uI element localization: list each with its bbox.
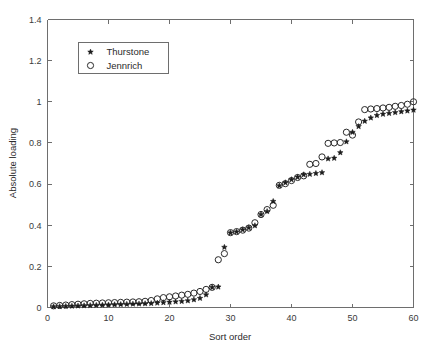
data-point-star: [380, 111, 386, 116]
x-tick-label: 20: [164, 313, 174, 323]
data-point-circle: [331, 140, 337, 146]
data-point-star: [173, 299, 179, 304]
data-point-star: [405, 108, 411, 113]
scatter-chart: 010203040506000.20.40.60.811.21.4 Thurst…: [0, 0, 433, 355]
data-point-star: [222, 244, 228, 249]
legend-label-jennrich: Jennrich: [107, 60, 143, 71]
figure-container: 010203040506000.20.40.60.811.21.4 Thurst…: [0, 0, 433, 355]
x-tick-label: 0: [45, 313, 50, 323]
data-point-star: [386, 110, 392, 115]
data-point-star: [374, 112, 380, 117]
data-point-star: [350, 129, 356, 134]
data-point-star: [289, 177, 295, 182]
data-point-circle: [343, 129, 349, 135]
data-point-circle: [173, 293, 179, 299]
data-point-circle: [185, 291, 191, 297]
data-point-star: [216, 284, 222, 289]
x-tick-label: 60: [408, 313, 418, 323]
data-point-star: [167, 299, 173, 304]
data-point-star: [203, 292, 209, 297]
y-tick-label: 0: [36, 303, 41, 313]
data-point-circle: [191, 290, 197, 296]
data-point-star: [94, 302, 100, 307]
data-point-circle: [386, 104, 392, 110]
legend-label-thurstone: Thurstone: [107, 46, 150, 57]
data-point-star: [411, 107, 417, 112]
data-point-circle: [221, 251, 227, 257]
x-tick-label: 30: [225, 313, 235, 323]
data-point-circle: [380, 105, 386, 111]
x-axis-label: Sort order: [209, 331, 251, 342]
y-tick-label: 0.6: [29, 179, 42, 189]
data-point-star: [191, 297, 197, 302]
data-point-star: [106, 302, 112, 307]
data-point-star: [313, 170, 319, 175]
data-point-star: [148, 300, 154, 305]
data-point-star: [368, 115, 374, 120]
series-jennrich: [51, 99, 417, 309]
data-point-star: [142, 301, 148, 306]
chart-legend: ThurstoneJennrich: [79, 43, 169, 74]
data-point-circle: [215, 257, 221, 263]
data-point-star: [100, 302, 106, 307]
data-point-star: [301, 172, 307, 177]
y-tick-label: 1: [36, 97, 41, 107]
data-point-star: [307, 171, 313, 176]
data-point-circle: [404, 101, 410, 107]
data-point-circle: [325, 140, 331, 146]
data-point-circle: [197, 288, 203, 294]
data-point-circle: [337, 139, 343, 145]
data-point-star: [130, 301, 136, 306]
data-point-star: [264, 209, 270, 214]
data-point-star: [179, 298, 185, 303]
data-point-circle: [368, 106, 374, 112]
x-tick-label: 10: [103, 313, 113, 323]
data-point-star: [362, 118, 368, 123]
data-point-star: [338, 150, 344, 155]
data-point-star: [197, 295, 203, 300]
data-point-star: [136, 301, 142, 306]
data-point-circle: [179, 292, 185, 298]
y-tick-label: 0.2: [29, 262, 42, 272]
data-point-circle: [362, 107, 368, 113]
data-point-circle: [319, 154, 325, 160]
y-tick-label: 0.4: [29, 221, 42, 231]
data-point-star: [124, 301, 130, 306]
data-point-star: [399, 109, 405, 114]
data-point-star: [112, 302, 118, 307]
data-point-star: [325, 156, 331, 161]
data-point-circle: [307, 161, 313, 167]
data-point-star: [118, 302, 124, 307]
data-points: [51, 99, 417, 309]
data-point-star: [392, 110, 398, 115]
data-point-circle: [398, 102, 404, 108]
data-point-circle: [374, 105, 380, 111]
data-point-star: [319, 170, 325, 175]
y-tick-label: 0.8: [29, 138, 42, 148]
data-point-circle: [313, 160, 319, 166]
y-tick-label: 1.2: [29, 56, 42, 66]
x-tick-label: 50: [347, 313, 357, 323]
data-point-star: [331, 155, 337, 160]
y-tick-label: 1.4: [29, 15, 42, 25]
data-point-star: [252, 223, 258, 228]
data-point-star: [185, 298, 191, 303]
series-thurstone: [51, 107, 416, 309]
y-axis-label: Absolute loading: [7, 128, 18, 198]
data-point-star: [283, 180, 289, 185]
x-tick-label: 40: [286, 313, 296, 323]
data-point-star: [344, 139, 350, 144]
data-point-circle: [270, 202, 276, 208]
data-point-circle: [392, 103, 398, 109]
